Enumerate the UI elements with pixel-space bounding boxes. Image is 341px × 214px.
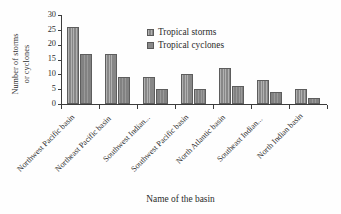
bar xyxy=(270,92,283,104)
bar xyxy=(80,54,93,104)
bar xyxy=(143,77,156,104)
x-axis-tick-mark xyxy=(213,105,214,109)
legend-label: Tropical storms xyxy=(158,27,216,37)
x-axis-line xyxy=(61,104,327,105)
bar xyxy=(308,98,321,104)
y-axis-tick-mark xyxy=(58,60,62,61)
legend-swatch-icon xyxy=(147,29,154,36)
bar xyxy=(257,80,270,104)
y-axis-tick-mark xyxy=(58,30,62,31)
x-axis-title: Name of the basin xyxy=(0,194,341,205)
bar xyxy=(156,89,169,104)
bar xyxy=(105,54,118,104)
y-axis-title-text: Number of storms or cyclones xyxy=(11,33,32,94)
bar xyxy=(219,68,232,104)
bar xyxy=(118,77,131,104)
legend-item: Tropical cyclones xyxy=(147,39,265,51)
y-axis-tick-label: 20 xyxy=(38,40,56,48)
y-axis-tick-label: 15 xyxy=(38,55,56,63)
y-axis-tick-label: 30 xyxy=(38,11,56,19)
legend-swatch-icon xyxy=(147,42,154,49)
y-axis-title-line-2: or cyclones xyxy=(21,33,32,94)
y-axis-title: Number of storms or cyclones xyxy=(4,18,38,110)
y-axis-line xyxy=(61,15,62,105)
chart-figure: Number of storms or cyclones 05101520253… xyxy=(0,0,341,214)
y-axis-tick-mark xyxy=(58,45,62,46)
y-axis-tick-label: 25 xyxy=(38,26,56,34)
bar xyxy=(181,74,194,104)
y-axis-title-line-1: Number of storms xyxy=(11,33,20,94)
x-axis-tick-mark xyxy=(251,105,252,109)
legend-item: Tropical storms xyxy=(147,26,265,38)
x-axis-tick-mark xyxy=(137,105,138,109)
y-axis-tick-mark xyxy=(58,74,62,75)
y-axis-tick-label: 5 xyxy=(38,85,56,93)
y-axis-tick-mark xyxy=(58,89,62,90)
x-axis-tick-mark xyxy=(327,105,328,109)
bar xyxy=(67,27,80,104)
bar xyxy=(194,89,207,104)
y-axis-tick-label: 10 xyxy=(38,70,56,78)
legend-label: Tropical cyclones xyxy=(158,40,224,50)
chart-legend: Tropical stormsTropical cyclones xyxy=(147,26,265,52)
bar xyxy=(232,86,245,104)
x-axis-tick-mark xyxy=(175,105,176,109)
y-axis-tick-mark xyxy=(58,15,62,16)
y-axis-tick-label: 0 xyxy=(38,100,56,108)
x-axis-tick-mark xyxy=(99,105,100,109)
x-axis-tick-mark xyxy=(61,105,62,109)
x-axis-tick-mark xyxy=(289,105,290,109)
bar xyxy=(295,89,308,104)
